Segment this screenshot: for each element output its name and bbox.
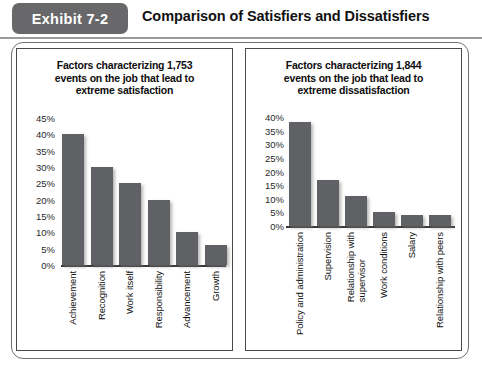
- category-label: Advancement: [182, 271, 193, 328]
- bar: [373, 212, 395, 226]
- bar-column: [345, 117, 367, 226]
- exhibit-header: Exhibit 7-2 Comparison of Satisfiers and…: [0, 3, 482, 37]
- category-label: Policy and administration: [295, 232, 306, 335]
- bar-column: [91, 118, 113, 265]
- category-label: Responsibility: [153, 271, 164, 328]
- category-label: Relationship with peers: [435, 232, 446, 328]
- category-label: Recognition: [96, 271, 107, 320]
- bar-column: [401, 117, 423, 226]
- category-label: Supervision: [323, 232, 334, 281]
- chart-panel-dissatisfiers: Factors characterizing 1,844 events on t…: [245, 48, 462, 351]
- bar-column: [176, 118, 198, 265]
- category-label: Work conditions: [379, 232, 390, 298]
- bar-column: [289, 117, 311, 226]
- exhibit-number-badge: Exhibit 7-2: [12, 3, 128, 34]
- category-label: Work itself: [125, 271, 136, 314]
- bar-column: [373, 117, 395, 226]
- bar-column: [148, 118, 170, 265]
- bar: [317, 180, 339, 226]
- bar: [205, 245, 227, 265]
- bar: [429, 215, 451, 226]
- bar-column: [429, 117, 451, 226]
- category-label: Growth: [210, 271, 221, 301]
- chart-panel-satisfiers: Factors characterizing 1,753 events on t…: [16, 48, 233, 351]
- bar-series-satisfiers: [17, 118, 232, 265]
- category-label: Achievement: [68, 271, 79, 325]
- bar-series-dissatisfiers: [246, 117, 461, 226]
- bar: [401, 215, 423, 226]
- x-axis-line-satisfiers: [61, 265, 226, 267]
- bar-column: [317, 117, 339, 226]
- bar: [62, 134, 84, 265]
- category-label: Relationship with supervisor: [346, 232, 367, 302]
- bar-column: [119, 118, 141, 265]
- plot-area-satisfiers: 45%40%35%30%25%20%15%10%5%0% Achievement…: [17, 49, 232, 350]
- bar: [119, 183, 141, 265]
- bar: [176, 232, 198, 265]
- bar: [148, 200, 170, 265]
- x-axis-labels-dissatisfiers: Policy and administrationSupervisionRela…: [246, 230, 461, 353]
- plot-area-dissatisfiers: 40%35%30%25%20%15%10%5%0% Policy and adm…: [246, 49, 461, 350]
- exhibit-title: Comparison of Satisfiers and Dissatisfie…: [142, 8, 430, 24]
- bar: [91, 167, 113, 265]
- x-axis-line-dissatisfiers: [286, 226, 455, 228]
- x-axis-labels-satisfiers: AchievementRecognitionWork itselfRespons…: [17, 269, 232, 353]
- bar-column: [205, 118, 227, 265]
- bar: [345, 196, 367, 226]
- category-label: Salary: [407, 232, 418, 258]
- bar: [289, 122, 311, 226]
- header-divider: [0, 37, 482, 39]
- bar-column: [62, 118, 84, 265]
